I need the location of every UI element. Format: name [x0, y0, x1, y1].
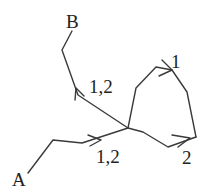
- loop-1-edge: [128, 67, 196, 137]
- edge-label-from-a: 1,2: [96, 146, 120, 167]
- edge-label-loop-2: 2: [182, 147, 192, 168]
- node-label-a: A: [12, 169, 26, 190]
- edge-label-loop-1: 1: [171, 51, 181, 72]
- edge-label-to-b: 1,2: [89, 76, 113, 97]
- node-label-b: B: [66, 11, 79, 32]
- path-diagram: B A 1,2 1,2 1 2: [0, 0, 206, 195]
